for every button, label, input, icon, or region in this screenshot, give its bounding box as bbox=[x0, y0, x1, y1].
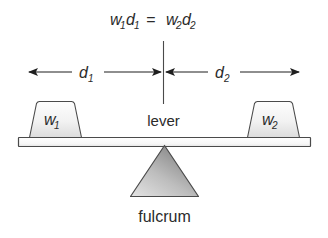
equation-lhs-d-subscript: 1 bbox=[134, 20, 140, 31]
lever-label: lever bbox=[147, 112, 180, 129]
lever-diagram-canvas: w 1 d 1 = w 2 d 2 d 1 d 2 lever bbox=[0, 0, 328, 238]
fulcrum-triangle bbox=[131, 146, 199, 197]
fulcrum-group: fulcrum bbox=[131, 146, 199, 226]
equation-rhs-d-subscript: 2 bbox=[189, 20, 196, 31]
lever-diagram: w 1 d 1 = w 2 d 2 d 1 d 2 lever bbox=[0, 0, 328, 238]
d2-label-subscript: 2 bbox=[223, 73, 230, 84]
weight-block-w1: w 1 bbox=[30, 102, 82, 138]
dimension-d2: d 2 bbox=[166, 64, 299, 84]
equation-lhs-w-subscript: 1 bbox=[120, 20, 126, 31]
fulcrum-label: fulcrum bbox=[138, 208, 190, 225]
equation-equals-sign: = bbox=[146, 11, 155, 28]
weight-w2-subscript: 2 bbox=[271, 120, 278, 131]
dimension-d1: d 1 bbox=[29, 64, 161, 84]
d1-label-subscript: 1 bbox=[88, 73, 94, 84]
equation-rhs-w-subscript: 2 bbox=[175, 20, 182, 31]
equation-group: w 1 d 1 = w 2 d 2 bbox=[110, 11, 196, 31]
weight-w1-subscript: 1 bbox=[54, 120, 60, 131]
weight-block-w2: w 2 bbox=[248, 102, 300, 138]
